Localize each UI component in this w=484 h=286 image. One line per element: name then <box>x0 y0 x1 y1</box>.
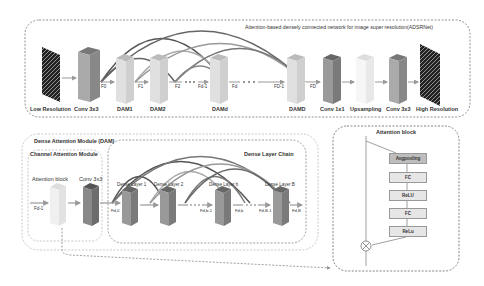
feature-F0: F0 <box>101 84 106 89</box>
dam-conv3x3-cube <box>83 183 99 226</box>
damd-block <box>210 54 228 104</box>
label-dam1: DAM1 <box>117 106 133 112</box>
low-resolution-image <box>42 47 60 102</box>
label-conv3x3: Conv 3x3 <box>74 106 98 112</box>
dense-layer-b-cube <box>215 186 231 226</box>
damD-block <box>287 54 305 104</box>
dense-layer-2-label: Dense Layer 2 <box>154 182 183 187</box>
attention-block-cube <box>50 183 66 226</box>
dense-layer-B-label: Dense Layer B <box>265 182 295 187</box>
label-low-resolution: Low Resolution <box>30 106 71 112</box>
adsrnet-title: Attention-based densely connected networ… <box>245 24 433 30</box>
feature-F2: F2 <box>175 84 180 89</box>
attention-block-label: Attention block <box>32 176 68 182</box>
channel-attention-title: Channel Attention Module <box>30 151 98 157</box>
conv3x3-block <box>78 47 100 102</box>
multiply-icon <box>361 241 371 251</box>
feature-Fd-1: Fd-1 <box>198 84 207 89</box>
upsampling-block <box>356 54 374 104</box>
feature-Fdb: Fd,b <box>235 208 243 213</box>
conv3x3-end-block <box>389 54 407 104</box>
feature-FdB: Fd,B <box>292 208 301 213</box>
dam1-block <box>116 54 134 104</box>
label-high-resolution: High Resolution <box>416 106 458 112</box>
dense-layer-B-cube <box>273 186 289 226</box>
feature-F1: F1 <box>138 84 143 89</box>
label-conv1x1: Conv 1x1 <box>320 106 344 112</box>
high-resolution-image <box>420 44 440 106</box>
dense-layer-1-cube <box>122 186 138 226</box>
dense-layer-1-label: Dense Layer 1 <box>117 182 146 187</box>
feature-Fd0: Fd,0 <box>111 208 119 213</box>
dense-chain-title: Dense Layer Chain <box>244 151 294 157</box>
label-dam2: DAM2 <box>150 106 166 112</box>
step-avgpooling: Avgpooling <box>389 153 427 164</box>
dam2-block <box>150 54 168 104</box>
attention-block-connector <box>62 228 330 268</box>
step-relu-2: ReLu <box>389 226 427 237</box>
feature-Fd: Fd <box>232 84 237 89</box>
dense-layer-2-cube <box>160 186 176 226</box>
feature-FD-1: FD-1 <box>274 84 284 89</box>
conv1x1-block <box>323 54 341 104</box>
dam-title: Dense Attention Module (DAM) <box>34 138 114 144</box>
label-conv3x3-end: Conv 3x3 <box>386 106 410 112</box>
dam-conv3x3-label: Conv 3x3 <box>79 176 102 182</box>
feature-FdB-1: Fd,B-1 <box>259 208 272 213</box>
attention-block-title: Attention block <box>376 129 416 135</box>
dense-layer-b-label: Dense Layer b <box>209 182 238 187</box>
label-damD: DAMD <box>289 106 306 112</box>
feature-FD: FD <box>310 84 316 89</box>
label-upsampling: Upsampling <box>350 106 381 112</box>
step-fc-2: FC <box>389 208 427 219</box>
step-relu: ReLU <box>389 190 427 201</box>
feature-Fdb-1: Fd,b-1 <box>200 208 212 213</box>
feature-Fd-1-input: Fd-1 <box>34 206 43 211</box>
dense-chain-arcs <box>112 157 290 204</box>
step-fc-1: FC <box>389 172 427 183</box>
label-damd: DAMd <box>212 106 228 112</box>
